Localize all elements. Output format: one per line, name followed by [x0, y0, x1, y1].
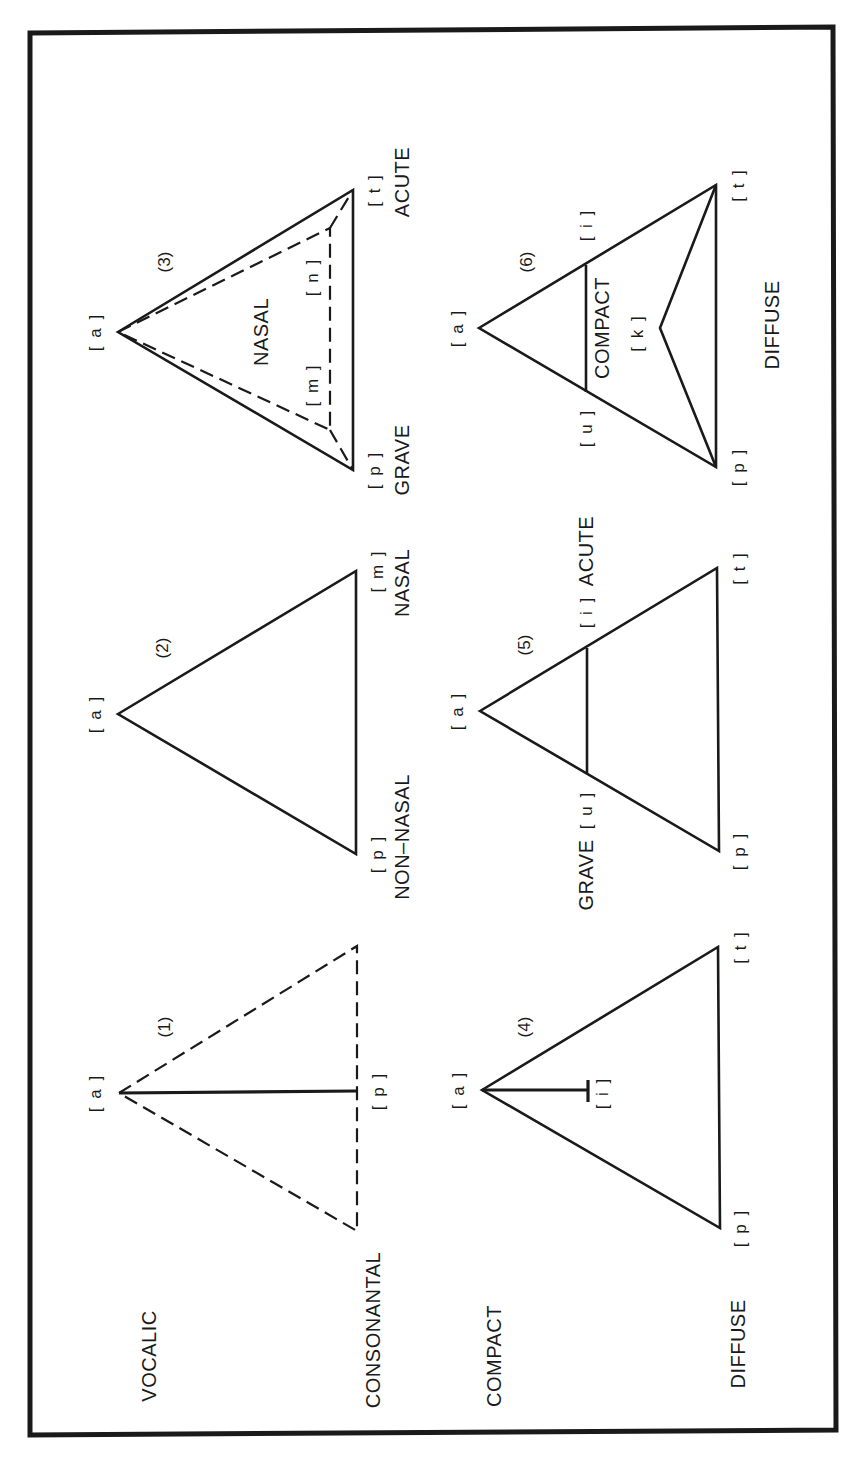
diagram-2-non-nasal-label: NON–NASAL [391, 774, 413, 900]
diagram-3-base-left-label: [ p ] [365, 451, 384, 489]
diagram-6-base-right-label: [ t ] [729, 168, 748, 202]
diagram-6-base-left-label: [ p ] [729, 448, 748, 486]
diagram-1-base-label: [ p ] [369, 1072, 388, 1110]
diagram-6-side-left-label: [ u ] [577, 409, 596, 447]
diagram-4-compact-label: COMPACT [483, 1305, 505, 1407]
diagram-4: (4) [ a ] [ i ] [ t ] [ p ] COMPACT DIFF… [449, 930, 750, 1407]
diagram-3-nasal-dashed-triangle [118, 228, 330, 430]
diagram-2-nasal-label: NASAL [391, 549, 413, 617]
diagram-5-base-left-label: [ p ] [730, 832, 749, 870]
diagram-3-number: (3) [155, 252, 174, 273]
diagram-6-compact-label: COMPACT [591, 277, 613, 379]
diagram-3-inner-right-label: [ n ] [303, 258, 322, 296]
feature-triangles-figure: (3) [ a ] NASAL [ m ] [ n ] [ p ] [ t ] … [0, 0, 849, 1475]
diagram-3-grave-label: GRAVE [391, 424, 413, 495]
diagram-2: (2) [ a ] [ m ] [ p ] NASAL NON–NASAL [86, 549, 413, 900]
diagram-1-number: (1) [155, 1017, 174, 1038]
diagram-4-apex-label: [ a ] [449, 1071, 468, 1109]
diagram-5-base-right-label: [ t ] [730, 551, 749, 585]
diagram-3-apex-label: [ a ] [86, 313, 105, 351]
diagram-5-acute-label: ACUTE [575, 516, 597, 586]
diagram-6-k-label: [ k ] [628, 314, 647, 351]
diagram-5-side-left-label: [ u ] [577, 791, 596, 829]
diagram-1-dashed-triangle [119, 946, 357, 1231]
diagram-2-base-right-label: [ m ] [368, 549, 387, 592]
diagram-5-number: (5) [515, 635, 534, 656]
diagram-4-number: (4) [515, 1017, 534, 1038]
diagram-4-stem-label: [ i ] [593, 1077, 612, 1110]
diagram-1: (1) [ a ] [ p ] VOCALIC CONSONANTAL [86, 946, 388, 1408]
diagram-5-side-right-label: [ i ] [577, 596, 596, 629]
diagram-3: (3) [ a ] NASAL [ m ] [ n ] [ p ] [ t ] … [86, 147, 413, 496]
diagram-3-inner-left-label: [ m ] [303, 363, 322, 406]
diagram-4-base-right-label: [ t ] [731, 930, 750, 964]
diagram-5-apex-label: [ a ] [448, 692, 467, 730]
diagram-2-base-left-label: [ p ] [368, 835, 387, 873]
diagram-2-apex-label: [ a ] [86, 695, 105, 733]
diagram-3-acute-label: ACUTE [391, 147, 413, 217]
diagram-5-triangle [480, 568, 719, 851]
diagram-2-triangle [118, 571, 356, 854]
diagram-4-base-left-label: [ p ] [731, 1209, 750, 1247]
diagram-6-diffuse-label: DIFFUSE [761, 280, 783, 369]
diagram-6: (6) [ a ] [ i ] [ u ] COMPACT [ k ] DIFF… [448, 168, 783, 486]
diagram-3-outer-triangle [118, 190, 353, 470]
diagram-3-dashed-connectors [330, 190, 353, 470]
diagram-1-apex-label: [ a ] [86, 1074, 105, 1112]
diagram-6-apex-label: [ a ] [448, 309, 467, 347]
diagram-1-median-line [119, 1091, 357, 1093]
diagram-2-number: (2) [153, 638, 172, 659]
diagram-1-consonantal-label: CONSONANTAL [362, 1252, 384, 1408]
diagram-4-diffuse-label: DIFFUSE [727, 1299, 749, 1388]
diagram-5-grave-label: GRAVE [575, 839, 597, 910]
diagram-6-k-wedge [660, 185, 716, 467]
diagram-6-side-right-label: [ i ] [577, 209, 596, 242]
diagram-5: (5) [ a ] [ i ] ACUTE [ u ] GRAVE [ t ] … [448, 516, 749, 911]
diagram-6-number: (6) [517, 252, 536, 273]
diagram-3-base-right-label: [ t ] [365, 173, 384, 207]
diagram-1-vocalic-label: VOCALIC [138, 1310, 160, 1401]
diagram-3-inner-label: NASAL [250, 298, 272, 366]
